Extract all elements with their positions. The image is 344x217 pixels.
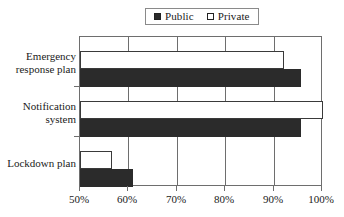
chart-legend: Public Private [145, 8, 259, 25]
empty-square-icon [207, 13, 214, 20]
filled-square-icon [154, 13, 161, 20]
xtick-label-60: 60% [107, 193, 147, 205]
category-label-line2: response plan [0, 63, 76, 76]
legend-label-private: Private [218, 11, 250, 22]
xtick-label-80: 80% [204, 193, 244, 205]
bar-public-emergency-response-plan [80, 69, 301, 87]
bar-private-lockdown-plan [80, 151, 112, 169]
legend-label-public: Public [165, 11, 194, 22]
xtick-label-100: 100% [301, 193, 341, 205]
category-label-emergency-response-plan: Emergency response plan [0, 50, 76, 75]
xtick-90 [273, 186, 274, 191]
legend-entry-public: Public [154, 11, 194, 22]
category-label-notification-system: Notification system [0, 100, 76, 125]
plot-area [79, 36, 322, 186]
xtick-60 [127, 186, 128, 191]
xtick-50 [79, 186, 80, 191]
xtick-100 [321, 186, 322, 191]
bar-public-notification-system [80, 119, 301, 137]
xtick-70 [176, 186, 177, 191]
bar-private-notification-system [80, 101, 323, 119]
bar-chart: Public Private Emergency response plan N… [0, 0, 344, 217]
bar-public-lockdown-plan [80, 169, 133, 187]
xtick-label-50: 50% [59, 193, 99, 205]
category-label-line1: Notification [0, 100, 76, 113]
xtick-label-70: 70% [156, 193, 196, 205]
category-label-line1: Lockdown plan [0, 157, 76, 170]
category-label-line2: system [0, 113, 76, 126]
category-label-line1: Emergency [0, 50, 76, 63]
bar-private-emergency-response-plan [80, 51, 284, 69]
legend-entry-private: Private [207, 11, 250, 22]
xtick-80 [224, 186, 225, 191]
xtick-label-90: 90% [253, 193, 293, 205]
category-label-lockdown-plan: Lockdown plan [0, 157, 76, 170]
